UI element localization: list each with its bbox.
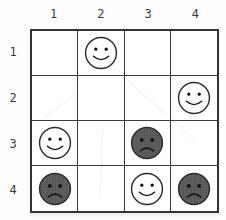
cell-r3c2[interactable] xyxy=(78,121,124,166)
cell-r1c1[interactable] xyxy=(32,31,78,76)
cell-r2c3[interactable] xyxy=(125,76,171,121)
happy-face-light xyxy=(129,171,165,207)
cell-r1c3[interactable] xyxy=(125,31,171,76)
cell-r4c2[interactable] xyxy=(78,166,124,211)
cell-r2c4[interactable] xyxy=(171,76,217,121)
column-label-1: 1 xyxy=(30,4,77,24)
cell-r2c2[interactable] xyxy=(78,76,124,121)
sad-face-dark xyxy=(37,171,73,207)
cell-r4c1[interactable] xyxy=(32,166,78,211)
puzzle-grid xyxy=(30,29,219,213)
column-label-4: 4 xyxy=(172,4,219,24)
cell-r1c2[interactable] xyxy=(78,31,124,76)
puzzle-canvas: 1 2 3 4 1 2 3 4 xyxy=(0,0,226,220)
cell-r3c4[interactable] xyxy=(171,121,217,166)
cell-r4c4[interactable] xyxy=(171,166,217,211)
happy-face-light xyxy=(37,125,73,161)
cell-r3c1[interactable] xyxy=(32,121,78,166)
cell-r3c3[interactable] xyxy=(125,121,171,166)
happy-face-light xyxy=(83,35,119,71)
column-labels: 1 2 3 4 xyxy=(30,4,219,24)
cell-r1c4[interactable] xyxy=(171,31,217,76)
row-label-2: 2 xyxy=(0,75,26,121)
column-label-3: 3 xyxy=(125,4,172,24)
sad-face-dark xyxy=(129,125,165,161)
cell-r2c1[interactable] xyxy=(32,76,78,121)
row-label-3: 3 xyxy=(0,121,26,167)
cell-r4c3[interactable] xyxy=(125,166,171,211)
row-labels: 1 2 3 4 xyxy=(0,29,26,213)
row-label-1: 1 xyxy=(0,29,26,75)
happy-face-light xyxy=(176,80,212,116)
column-label-2: 2 xyxy=(77,4,124,24)
row-label-4: 4 xyxy=(0,167,26,213)
sad-face-dark xyxy=(176,171,212,207)
